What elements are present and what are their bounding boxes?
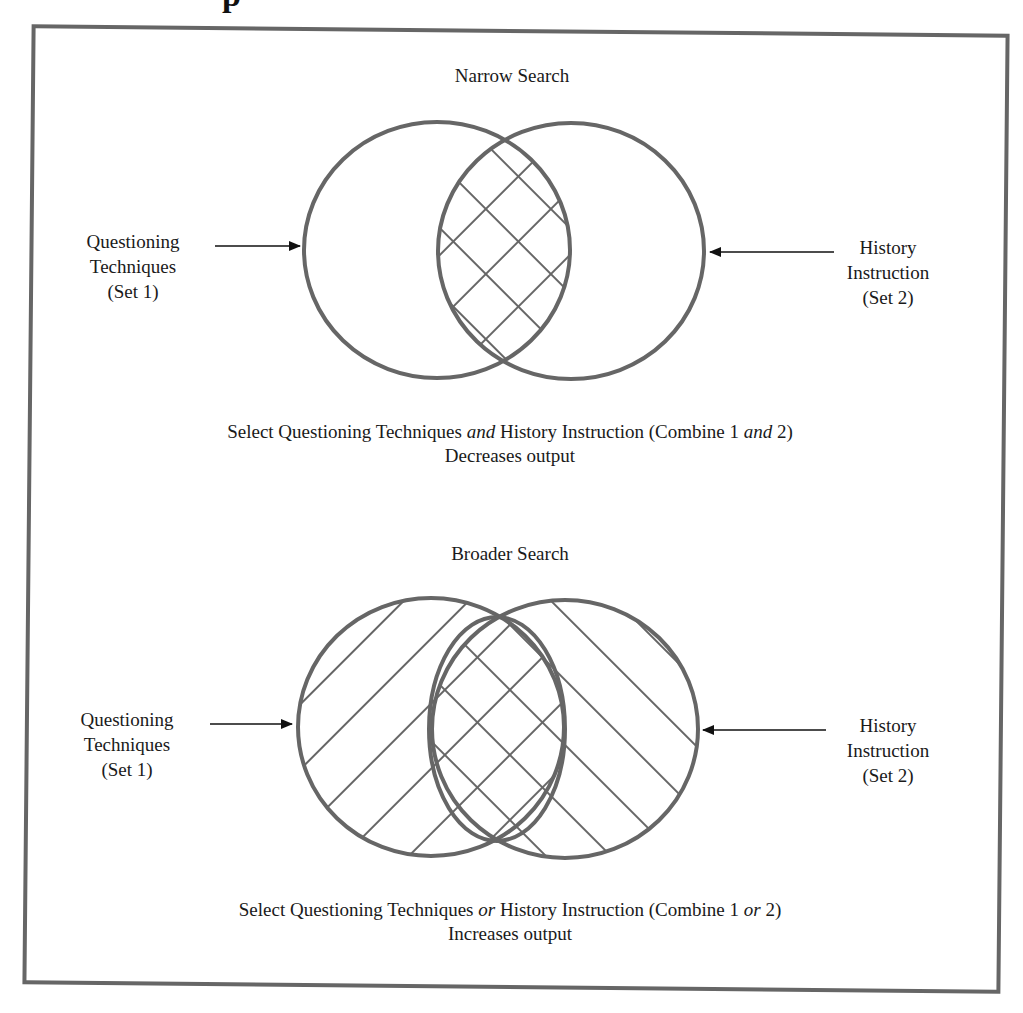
broader-search-caption: Select Questioning Techniques or History… (100, 898, 920, 946)
and-operator: and (467, 421, 496, 442)
or-operator: or (744, 899, 761, 920)
broader-set2-label: History Instruction (Set 2) (818, 713, 958, 788)
label-line: Techniques (42, 732, 212, 757)
label-line: Questioning (42, 707, 212, 732)
narrow-set1-label: Questioning Techniques (Set 1) (48, 229, 218, 304)
broader-search-title: Broader Search (425, 542, 595, 566)
label-line: History (818, 235, 958, 260)
or-operator: or (478, 899, 495, 920)
label-line: (Set 1) (48, 279, 218, 304)
narrow-search-caption: Select Questioning Techniques and Histor… (100, 420, 920, 468)
caption-line-1: Select Questioning Techniques or History… (100, 898, 920, 922)
label-line: (Set 1) (42, 757, 212, 782)
broader-set1-label: Questioning Techniques (Set 1) (42, 707, 212, 782)
label-line: Techniques (48, 254, 218, 279)
narrow-set2-label: History Instruction (Set 2) (818, 235, 958, 310)
broader-search-venn (210, 590, 826, 867)
narrow-search-venn (215, 122, 834, 379)
label-line: Instruction (818, 260, 958, 285)
caption-line-1: Select Questioning Techniques and Histor… (100, 420, 920, 444)
caption-line-2: Increases output (100, 922, 920, 946)
label-line: Instruction (818, 738, 958, 763)
figure-canvas: p (0, 0, 1023, 1013)
narrow-search-title: Narrow Search (430, 64, 594, 88)
caption-line-2: Decreases output (100, 444, 920, 468)
label-line: Questioning (48, 229, 218, 254)
label-line: (Set 2) (818, 285, 958, 310)
label-line: History (818, 713, 958, 738)
label-line: (Set 2) (818, 763, 958, 788)
venn-diagrams-graphic (0, 0, 1023, 1013)
and-operator: and (744, 421, 773, 442)
